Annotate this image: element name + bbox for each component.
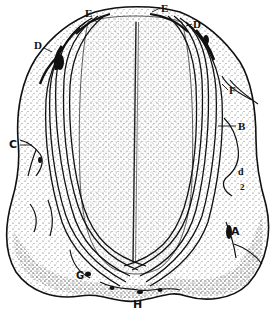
label-2: 2 <box>240 183 245 192</box>
label-D-right: D <box>193 19 201 30</box>
label-A: A <box>231 226 240 237</box>
label-d: d <box>238 167 244 177</box>
label-G: G <box>76 271 84 281</box>
label-D-left: D <box>34 40 42 51</box>
label-F: F <box>229 85 236 96</box>
label-C: C <box>9 139 17 150</box>
anatomical-figure: E E D D F B C d 2 A G H <box>0 0 274 312</box>
label-B: B <box>238 121 245 132</box>
label-E-left: E <box>85 8 92 19</box>
label-E-right: E <box>161 3 168 14</box>
label-H: H <box>133 299 142 310</box>
